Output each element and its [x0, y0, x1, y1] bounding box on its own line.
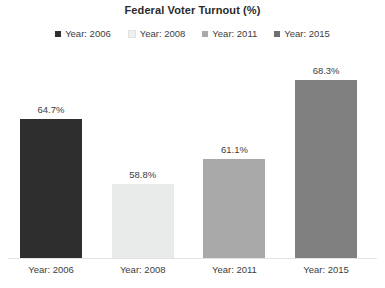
bar-value-label: 64.7% [38, 104, 65, 115]
axis-baseline [8, 258, 377, 259]
bar-value-label: 61.1% [221, 144, 248, 155]
bar-group: 61.1% [203, 30, 265, 258]
bar-group: 58.8% [112, 30, 174, 258]
bar[interactable] [20, 119, 82, 258]
bar-group: 64.7% [20, 30, 82, 258]
x-axis-label: Year: 2006 [6, 264, 96, 275]
bar[interactable] [112, 184, 174, 258]
x-axis-label: Year: 2008 [98, 264, 188, 275]
bar[interactable] [295, 80, 357, 258]
x-axis-label: Year: 2011 [189, 264, 279, 275]
plot-area: 64.7% 58.8% 61.1% 68.3% Year: 2006 Year:… [0, 0, 385, 288]
bar-group: 68.3% [295, 30, 357, 258]
bar-chart: Federal Voter Turnout (%) Year: 2006 Yea… [0, 0, 385, 288]
bar[interactable] [203, 159, 265, 258]
x-axis-label: Year: 2015 [281, 264, 371, 275]
bar-value-label: 68.3% [313, 65, 340, 76]
bar-value-label: 58.8% [129, 169, 156, 180]
